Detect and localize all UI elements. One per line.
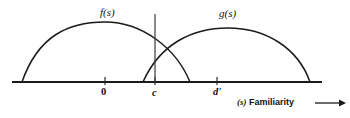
tick-label-dprime: d': [213, 87, 221, 98]
figure-canvas: [0, 0, 350, 118]
axis-group: [12, 77, 322, 85]
curve-label-g: g(s): [219, 8, 236, 19]
familiarity-distributions-figure: f(s) g(s) 0 c d' (s) Familiarity: [0, 0, 350, 118]
tick-label-c: c: [152, 88, 157, 99]
tick-label-zero: 0: [101, 87, 106, 98]
curve-f-of-s: [22, 22, 190, 82]
distribution-curves: [22, 22, 310, 82]
axis-caption-arrow-icon: [315, 100, 346, 107]
axis-caption-text: Familiarity: [249, 97, 294, 107]
axis-caption-variable: (s): [237, 97, 247, 107]
curve-g-of-s: [143, 28, 310, 82]
curve-label-f: f(s): [100, 7, 115, 18]
axis-caption: (s) Familiarity: [237, 98, 294, 107]
